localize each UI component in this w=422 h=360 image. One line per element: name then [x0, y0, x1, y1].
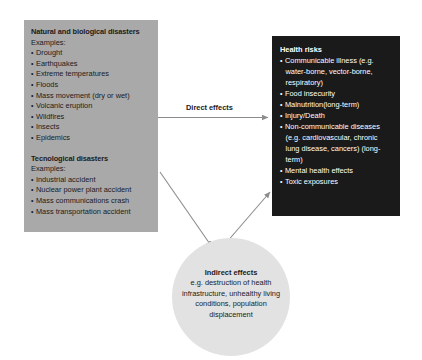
- list-item: Non-communicable diseases (e.g. cardiova…: [280, 121, 393, 165]
- hazard-group-subtitle: Examples:: [31, 38, 152, 49]
- hazard-group-subtitle: Examples:: [31, 164, 152, 175]
- list-item: Drought: [31, 48, 152, 59]
- hazard-group-title: Tecnological disasters: [31, 154, 152, 165]
- hazard-group-natural: Natural and biological disasters Example…: [31, 27, 152, 144]
- indirect-effects-circle: Indirect effects e.g. destruction of hea…: [172, 238, 290, 356]
- indirect-effects-body: e.g. destruction of health infrastructur…: [178, 278, 284, 320]
- arrow-indirect-to-health: [226, 192, 270, 243]
- list-item: Insects: [31, 122, 152, 133]
- list-item: Extreme temperatures: [31, 69, 152, 80]
- group-spacer: [31, 144, 152, 154]
- direct-effects-label: Direct effects: [186, 103, 233, 112]
- list-item: Mental health effects: [280, 165, 393, 176]
- hazard-group-technological: Tecnological disasters Examples: Industr…: [31, 154, 152, 218]
- list-item: Industrial accident: [31, 175, 152, 186]
- indirect-effects-title: Indirect effects: [178, 268, 284, 279]
- list-item: Floods: [31, 80, 152, 91]
- health-risks-list: Communicable illness (e.g. water-borne, …: [280, 55, 393, 187]
- list-item: Earthquakes: [31, 59, 152, 70]
- arrow-hazards-to-indirect: [160, 172, 212, 247]
- list-item: Mass communications crash: [31, 196, 152, 207]
- hazard-list-natural: Drought Earthquakes Extreme temperatures…: [31, 48, 152, 143]
- list-item: Wildfires: [31, 112, 152, 123]
- health-risks-title: Health risks: [280, 44, 393, 55]
- list-item: Toxic exposures: [280, 176, 393, 187]
- list-item: Food insecurity: [280, 88, 393, 99]
- list-item: Mass movement (dry or wet): [31, 91, 152, 102]
- hazards-box: Natural and biological disasters Example…: [24, 20, 158, 232]
- list-item: Volcanic eruption: [31, 101, 152, 112]
- list-item: Mass transportation accident: [31, 207, 152, 218]
- list-item: Malnutrition(long-term): [280, 99, 393, 110]
- list-item: Epidemics: [31, 133, 152, 144]
- list-item: Nuclear power plant accident: [31, 185, 152, 196]
- list-item: Injury/Death: [280, 110, 393, 121]
- hazard-list-technological: Industrial accident Nuclear power plant …: [31, 175, 152, 217]
- indirect-effects-content: Indirect effects e.g. destruction of hea…: [178, 268, 284, 321]
- health-risks-box: Health risks Communicable illness (e.g. …: [272, 36, 400, 216]
- hazard-group-title: Natural and biological disasters: [31, 27, 152, 38]
- diagram-canvas: Direct effects Natural and biological di…: [0, 0, 422, 360]
- list-item: Communicable illness (e.g. water-borne, …: [280, 55, 393, 88]
